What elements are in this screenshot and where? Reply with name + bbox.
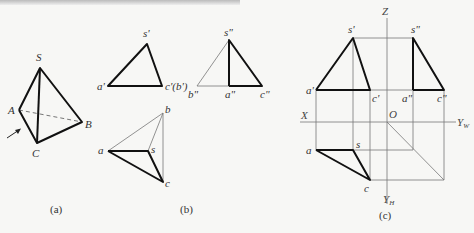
label-a-prime-c: a' xyxy=(306,84,315,96)
label-a-double-prime: a" xyxy=(225,88,236,100)
figure-b-top-view: b a s c (b) xyxy=(98,103,193,216)
axis-Z-label: Z xyxy=(382,5,389,17)
figure-c-front-view: s' a' c' xyxy=(306,23,380,104)
figure-c-axes: Z X O YW YH xyxy=(300,5,470,207)
figure-a-tetrahedron: S A B C (a) xyxy=(7,51,92,216)
caption-b: (b) xyxy=(180,203,193,216)
origin-O-label: O xyxy=(389,108,397,120)
axis-YH-label: YH xyxy=(383,193,395,207)
figure-b-side-view: s" b" a" c" xyxy=(188,26,270,100)
label-a: a xyxy=(98,144,104,156)
label-c: c xyxy=(165,177,170,189)
label-c-c: c xyxy=(364,182,369,194)
label-a-c: a xyxy=(306,144,312,156)
label-c-prime-c: c' xyxy=(372,92,380,104)
label-s-double-prime-c: s" xyxy=(411,23,420,35)
caption-a: (a) xyxy=(50,203,63,216)
tetrahedron-projection-diagram: S A B C (a) s' a' c'(b') s" b" a" c" b a… xyxy=(0,0,474,233)
label-b: b xyxy=(165,103,171,115)
label-b-double-prime: b" xyxy=(188,88,199,100)
caption-c: (c) xyxy=(379,209,392,222)
label-S: S xyxy=(36,51,42,63)
axis-YW-label: YW xyxy=(457,116,470,130)
label-c-double-prime-c: c" xyxy=(437,92,447,104)
axis-X-label: X xyxy=(300,109,309,121)
view-direction-arrow-icon xyxy=(7,129,21,139)
label-C: C xyxy=(32,147,40,159)
label-s-double-prime: s" xyxy=(224,26,233,38)
label-a-prime: a' xyxy=(97,80,106,92)
label-s-prime-c: s' xyxy=(348,23,355,35)
label-s-prime: s' xyxy=(143,27,150,39)
label-s: s xyxy=(151,143,155,155)
figure-c-side-view: s" a" c" xyxy=(402,23,447,104)
label-c-double-prime: c" xyxy=(260,88,270,100)
label-B: B xyxy=(85,118,92,130)
label-a-double-prime-c: a" xyxy=(402,92,413,104)
figure-b-front-view: s' a' c'(b') xyxy=(97,27,188,93)
label-s-c: s xyxy=(356,138,360,150)
label-c-prime-b-prime: c'(b') xyxy=(165,80,188,93)
label-A: A xyxy=(7,104,15,116)
